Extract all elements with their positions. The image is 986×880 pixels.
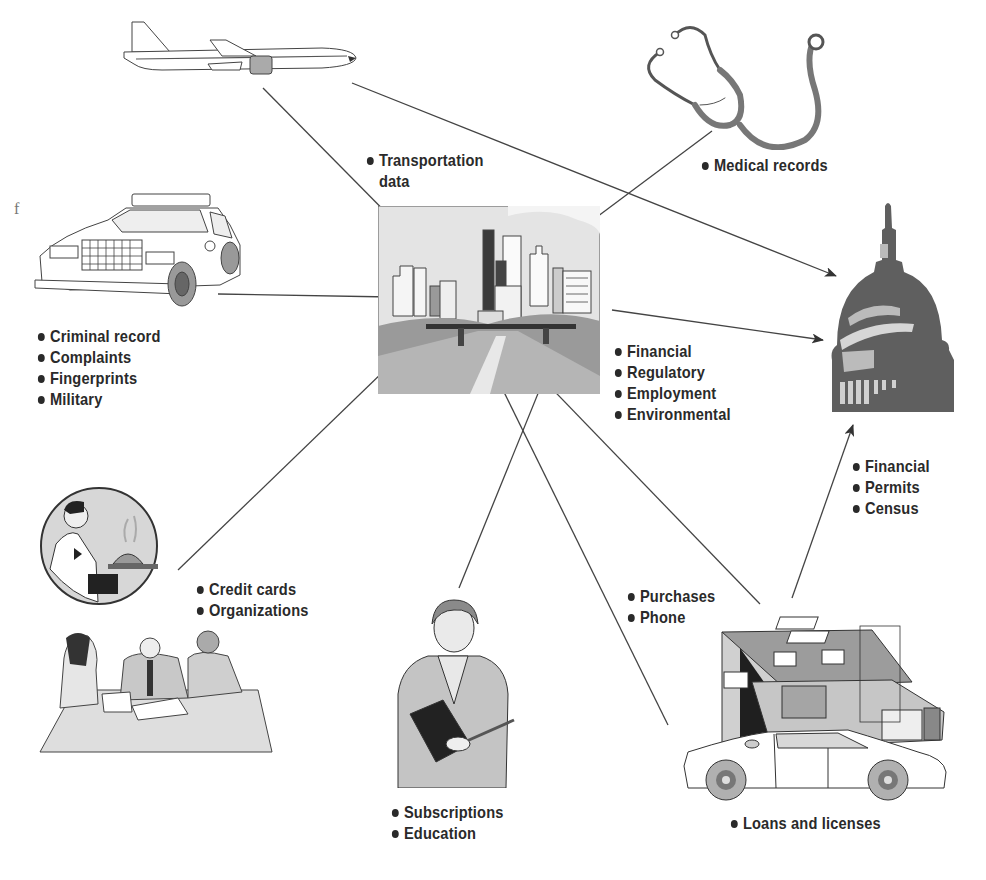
label-item: Purchases xyxy=(627,586,715,607)
label-item: Subscriptions xyxy=(391,802,504,823)
purchases-label: Purchases Phone xyxy=(627,586,715,628)
label-item: Military xyxy=(37,389,161,410)
label-item: Environmental xyxy=(614,404,731,425)
police-label: Criminal record Complaints Fingerprints … xyxy=(37,326,161,410)
label-item: Regulatory xyxy=(614,362,731,383)
label-item: Credit cards xyxy=(196,579,309,600)
business-meeting-illustration xyxy=(38,628,274,754)
education-label: Subscriptions Education xyxy=(391,802,504,844)
label-item: Financial xyxy=(614,341,731,362)
sports-car-illustration xyxy=(678,722,950,804)
police-car-illustration xyxy=(30,190,250,315)
city-hub-illustration xyxy=(378,206,600,394)
credit-label: Credit cards Organizations xyxy=(196,579,309,621)
diagram-canvas: f xyxy=(0,0,986,880)
label-item: Complaints xyxy=(37,347,161,368)
transportation-label: Transportation data xyxy=(366,150,484,192)
label-item: Census xyxy=(852,498,930,519)
label-item: Medical records xyxy=(701,155,828,176)
stethoscope-illustration xyxy=(635,20,845,150)
loans-label: Loans and licenses xyxy=(730,813,881,834)
capitol-dome-illustration xyxy=(822,200,957,412)
government-label: Financial Permits Census xyxy=(852,456,930,519)
stray-character: f xyxy=(14,200,19,218)
waiter-illustration xyxy=(38,484,160,608)
label-item: Permits xyxy=(852,477,930,498)
label-item: data xyxy=(366,171,484,192)
label-item: Criminal record xyxy=(37,326,161,347)
label-item: Education xyxy=(391,823,504,844)
medical-label: Medical records xyxy=(701,155,828,176)
airplane-illustration xyxy=(122,18,362,80)
label-item: Financial xyxy=(852,456,930,477)
label-item: Loans and licenses xyxy=(730,813,881,834)
label-item: Phone xyxy=(627,607,715,628)
label-item: Organizations xyxy=(196,600,309,621)
city-business-label: Financial Regulatory Employment Environm… xyxy=(614,341,731,425)
label-item: Transportation xyxy=(366,150,484,171)
label-item: Fingerprints xyxy=(37,368,161,389)
label-item: Employment xyxy=(614,383,731,404)
woman-clipboard-illustration xyxy=(388,594,518,788)
